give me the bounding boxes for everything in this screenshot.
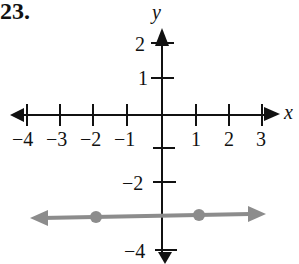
x-axis-left-arrow-icon: [10, 108, 24, 122]
line-right-arrow-icon: [248, 206, 266, 222]
x-tick-label: −1: [114, 128, 135, 150]
y-axis-label: y: [150, 1, 161, 24]
y-axis-down-arrow-icon: [158, 252, 172, 264]
graph-line-y-equals-neg3: [30, 206, 266, 226]
x-tick-label: −2: [80, 128, 101, 150]
x-axis-label: x: [283, 101, 293, 123]
y-tick-label: 2: [135, 33, 145, 55]
y-axis: [151, 28, 177, 264]
x-tick-label: 2: [224, 128, 234, 150]
y-tick-label: −4: [124, 240, 145, 262]
x-tick-label: 1: [191, 128, 201, 150]
x-tick-label: 3: [256, 128, 266, 150]
coordinate-plane: x y −4 −3 −2 −1 1 2 3 2 1 −2 −4: [0, 0, 299, 264]
x-tick-label: −3: [46, 128, 67, 150]
y-tick-label: 1: [138, 67, 148, 89]
x-tick-label: −4: [12, 128, 33, 150]
x-axis: [10, 104, 280, 126]
data-point: [193, 209, 205, 221]
y-tick-label: −2: [122, 172, 143, 194]
line-left-arrow-icon: [30, 210, 48, 226]
x-axis-right-arrow-icon: [264, 107, 280, 121]
data-point: [90, 211, 102, 223]
